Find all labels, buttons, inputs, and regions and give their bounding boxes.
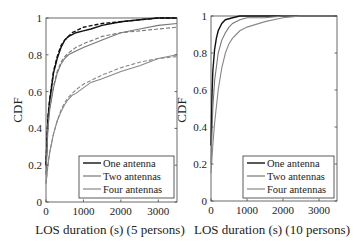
- x-tick-label: 3000: [147, 205, 170, 217]
- chart-panel-10-persons: 010002000300000.20.40.60.81 LOS duration…: [174, 10, 350, 237]
- series-line: [46, 24, 177, 175]
- x-tick-label: 3000: [308, 204, 331, 216]
- chart-panel-5-persons: 010002000300000.20.40.60.81 LOS duration…: [10, 12, 185, 237]
- x-tick-label: 2000: [110, 205, 133, 217]
- x-tick-label: 0: [43, 205, 49, 217]
- legend-item-one-antenna: One antenna: [267, 158, 320, 169]
- x-tick-label: 1000: [236, 204, 259, 216]
- series-line: [211, 16, 337, 173]
- y-tick-label: 1: [37, 12, 43, 24]
- y-tick-label: 0.8: [28, 49, 42, 61]
- y-tick-label: 0: [37, 196, 43, 208]
- series-layer: [211, 16, 337, 173]
- x-tick-label: 2000: [272, 204, 295, 216]
- y-tick-label: 0.2: [193, 158, 207, 170]
- legend-item-two-antennas: Two antennas: [103, 171, 161, 182]
- x-axis-label: LOS duration (s) (10 persons): [194, 222, 350, 237]
- legend-item-two-antennas: Two antennas: [267, 171, 325, 182]
- series-line: [211, 16, 337, 164]
- series-line: [46, 18, 177, 165]
- y-tick-label: 0.4: [28, 122, 42, 134]
- y-tick-label: 0.2: [28, 159, 42, 171]
- legend: One antenna Two antennas Four antennas: [243, 156, 334, 198]
- y-tick-label: 0: [202, 195, 208, 207]
- y-tick-label: 0.6: [193, 84, 207, 96]
- y-axis-label: CDF: [174, 97, 189, 122]
- y-tick-label: 0.6: [28, 86, 42, 98]
- legend: One antenna Two antennas Four antennas: [79, 156, 174, 198]
- series-line: [211, 16, 337, 146]
- x-axis-label: LOS duration (s) (5 persons): [35, 222, 184, 237]
- y-axis-label: CDF: [10, 97, 25, 122]
- y-tick-label: 0.4: [193, 121, 207, 133]
- legend-item-four-antennas: Four antennas: [267, 184, 326, 195]
- legend-item-one-antenna: One antenna: [103, 158, 156, 169]
- x-tick-label: 1000: [72, 205, 95, 217]
- y-tick-label: 1: [202, 10, 208, 22]
- y-tick-label: 0.8: [193, 47, 207, 59]
- x-tick-label: 0: [208, 204, 214, 216]
- cdf-figure: 010002000300000.20.40.60.81 LOS duration…: [0, 0, 361, 248]
- legend-item-four-antennas: Four antennas: [103, 184, 162, 195]
